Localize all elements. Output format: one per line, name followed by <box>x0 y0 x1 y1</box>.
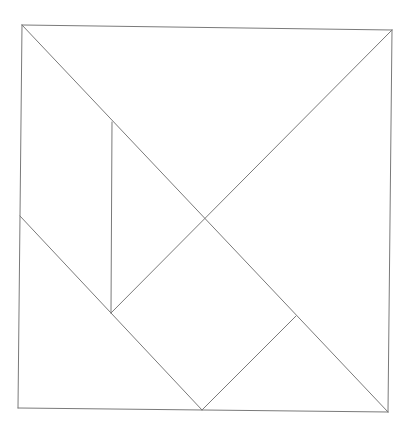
vertical-inner-line <box>111 122 112 313</box>
tangram-diagram <box>0 0 413 436</box>
outer-right-edge <box>388 30 392 412</box>
anti-diagonal-upper <box>111 30 392 313</box>
square-right-edge <box>202 316 296 410</box>
tangram-lines <box>18 25 392 412</box>
outer-top-edge <box>22 25 392 30</box>
